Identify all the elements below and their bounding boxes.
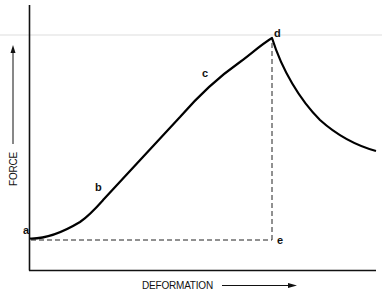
point-label-c: c — [202, 67, 208, 79]
arrow-right-icon — [288, 283, 297, 288]
arrow-up-icon — [11, 45, 16, 53]
force-deformation-diagram: a b c d e FORCE DEFORMATION — [0, 0, 382, 297]
x-axis-label: DEFORMATION — [142, 280, 213, 291]
point-label-e: e — [277, 234, 283, 246]
y-axis-label: FORCE — [8, 151, 19, 186]
point-label-b: b — [95, 181, 102, 193]
point-label-d: d — [274, 27, 281, 39]
point-label-a: a — [23, 224, 30, 236]
